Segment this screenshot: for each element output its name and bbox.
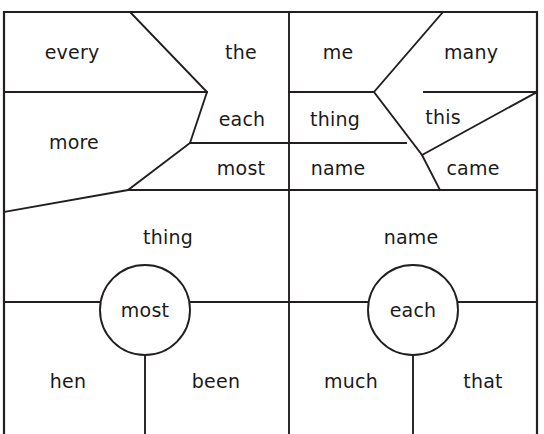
region-label-the: the (225, 41, 257, 63)
diagram-canvas (0, 0, 544, 434)
region-label-this: this (425, 106, 460, 128)
nucleus-label-each: each (390, 299, 437, 321)
region-label-that: that (463, 370, 502, 392)
zigzag-left (4, 12, 207, 212)
region-label-me: me (323, 41, 354, 63)
region-label-thing-top: thing (310, 108, 360, 130)
region-label-name-top: name (311, 157, 366, 179)
region-label-thing-mid: thing (143, 226, 193, 248)
zigzag-right (374, 12, 443, 190)
region-label-most-top: most (217, 157, 265, 179)
region-label-each-top: each (219, 108, 266, 130)
region-label-been: been (192, 370, 240, 392)
region-label-name-mid: name (384, 226, 439, 248)
region-label-much: much (324, 370, 378, 392)
word-cell-diagram: every the me many more each thing this m… (0, 0, 544, 434)
region-label-hen: hen (50, 370, 86, 392)
region-label-came: came (446, 157, 499, 179)
nucleus-label-most: most (121, 299, 169, 321)
region-label-more: more (49, 131, 99, 153)
region-label-many: many (444, 41, 498, 63)
region-label-every: every (45, 41, 100, 63)
